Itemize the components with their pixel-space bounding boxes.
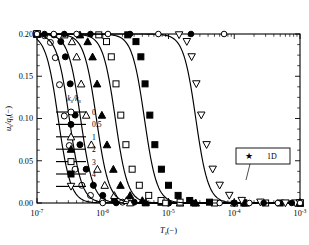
plateau-marker [61, 31, 67, 37]
data-point [62, 54, 68, 60]
plateau-marker [188, 31, 194, 37]
y-tick-label: 0.00 [19, 199, 33, 208]
x-tick-label: 10-6 [96, 208, 109, 218]
baseline-marker [217, 200, 223, 206]
legend-label: 3 [92, 158, 96, 167]
plateau-marker [88, 31, 94, 37]
data-point [113, 81, 119, 87]
data-point [147, 112, 153, 118]
plateau-marker [74, 31, 80, 37]
data-point [57, 82, 63, 88]
x-tick-label: 10-4 [228, 208, 241, 218]
baseline-marker [289, 200, 295, 206]
legend-label: 0.5 [92, 120, 102, 129]
data-point [103, 39, 109, 45]
legend-marker [68, 109, 74, 115]
data-point [146, 192, 152, 198]
breakthrough-curve-chart: 10-710-610-510-410-30.000.050.100.150.20… [0, 0, 309, 245]
data-point [136, 182, 142, 188]
data-point [77, 142, 83, 148]
baseline-marker [100, 200, 106, 206]
data-point [129, 166, 135, 172]
x-tick-label: 10-5 [162, 208, 175, 218]
legend-marker [68, 159, 74, 165]
data-point [133, 39, 139, 45]
legend-label: 0 [92, 108, 96, 117]
x-tick-label: 10-3 [294, 208, 307, 218]
y-tick-label: 0.15 [19, 72, 33, 81]
legend-label: 1 [92, 133, 96, 142]
baseline-marker [231, 200, 237, 206]
legend-marker [68, 121, 74, 127]
star-icon: ★ [245, 151, 253, 161]
baseline-marker [247, 200, 253, 206]
baseline-marker [275, 200, 281, 206]
baseline-marker [163, 200, 169, 206]
data-point [100, 192, 106, 198]
data-point [61, 113, 67, 119]
legend-label: 2 [92, 145, 96, 154]
x-tick-label: 10-7 [31, 208, 44, 218]
chart-root: 10-710-610-510-410-30.000.050.100.150.20… [0, 0, 309, 245]
y-axis-title: us/qs(−) [4, 106, 14, 131]
baseline-marker [297, 200, 303, 206]
baseline-marker [113, 200, 119, 206]
plateau-marker [127, 31, 133, 37]
data-point [175, 192, 181, 198]
data-point [123, 142, 129, 148]
annotation-label: 1D [267, 152, 277, 161]
y-tick-label: 0.20 [19, 30, 33, 39]
plateau-marker [156, 31, 162, 37]
y-tick-label: 0.05 [19, 157, 33, 166]
data-point [96, 32, 102, 38]
baseline-marker [191, 200, 197, 206]
data-point [206, 199, 212, 205]
plateau-marker [51, 31, 57, 37]
data-point [152, 142, 158, 148]
x-axis-title: Ts(−) [160, 226, 177, 236]
legend-marker [68, 171, 74, 177]
y-tick-label: 0.10 [19, 114, 33, 123]
baseline-marker [261, 200, 267, 206]
data-point [138, 54, 144, 60]
data-point [142, 81, 148, 87]
plateau-marker [105, 31, 111, 37]
legend-label: 4 [92, 170, 96, 179]
data-point [118, 112, 124, 118]
data-point [158, 166, 164, 172]
plateau-marker [42, 31, 48, 37]
legend-label: 5 [92, 182, 96, 191]
plateau-marker [221, 31, 227, 37]
plateau-marker [34, 31, 40, 37]
data-point [67, 81, 73, 87]
data-point [166, 182, 172, 188]
data-point [108, 54, 114, 60]
